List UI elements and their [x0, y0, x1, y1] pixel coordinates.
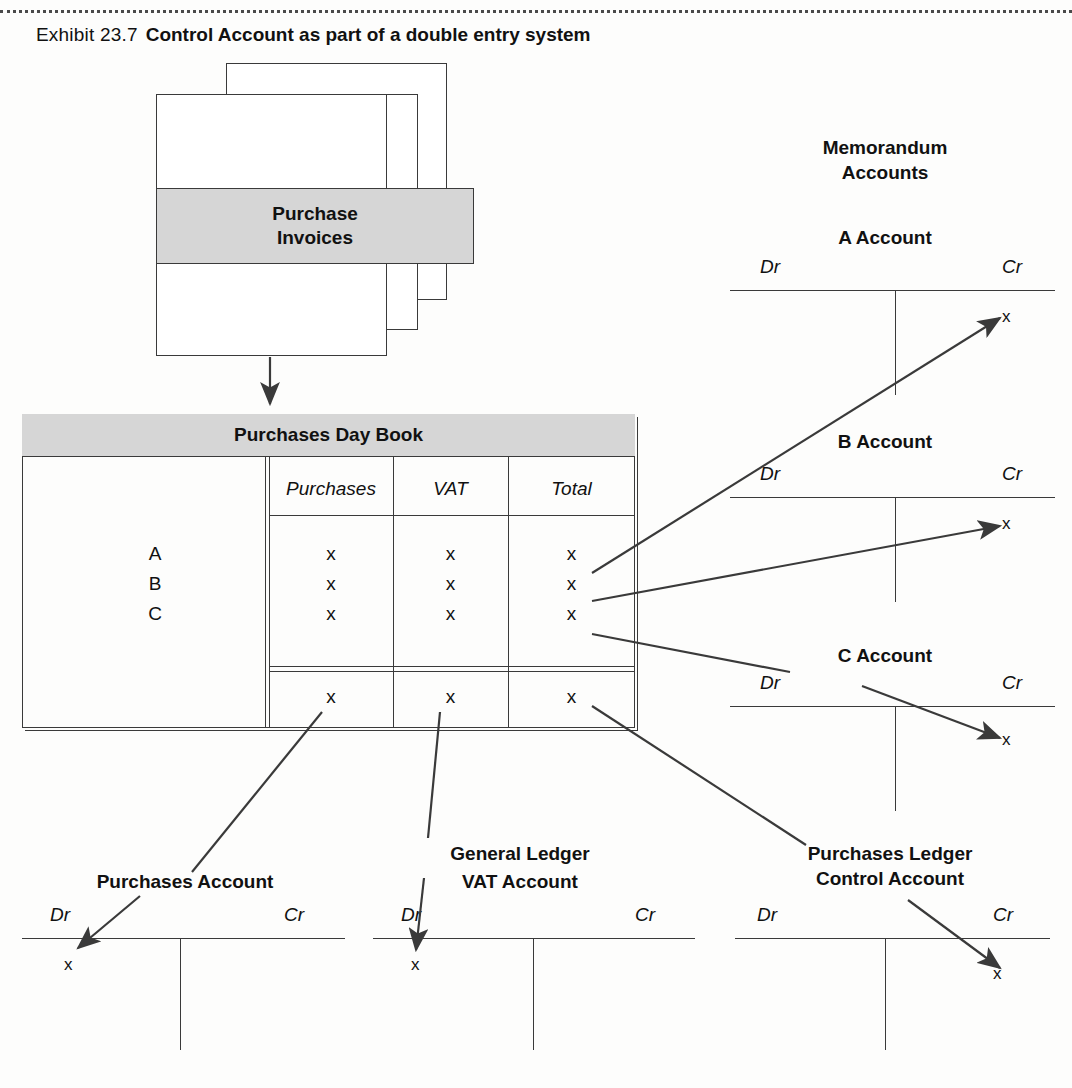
vat-account-debit-value: x — [411, 955, 420, 975]
arrow-purchases-total-to-purchases-account-segment2 — [78, 896, 140, 948]
purchases-day-book: Purchases Day Book Purchases VAT Total A… — [22, 414, 635, 728]
cell-total-c: x — [508, 599, 635, 629]
exhibit-title: Control Account as part of a double entr… — [146, 24, 591, 45]
c-account-dr-label: Dr — [760, 672, 780, 694]
b-account-title: B Account — [790, 430, 980, 455]
memorandum-heading-line2: Accounts — [842, 162, 929, 183]
column-header-vat: VAT — [393, 472, 508, 506]
column-header-purchases: Purchases — [269, 472, 393, 506]
b-account-dr-label: Dr — [760, 463, 780, 485]
memorandum-accounts-heading: Memorandum Accounts — [760, 136, 1010, 185]
plca-title-line2: Control Account — [816, 868, 964, 889]
cell-purchases-c: x — [269, 599, 393, 629]
c-account-title: C Account — [790, 644, 980, 669]
exhibit-number: Exhibit 23.7 — [36, 24, 138, 45]
exhibit-diagram: Exhibit 23.7Control Account as part of a… — [0, 0, 1072, 1088]
a-account-title: A Account — [790, 226, 980, 251]
memorandum-heading-line1: Memorandum — [823, 137, 948, 158]
column-cells-purchases: x x x — [269, 539, 393, 629]
c-account-bar — [730, 706, 1055, 707]
day-book-column-rule-left-a — [265, 457, 266, 728]
purchases-account-dr-label: Dr — [50, 904, 70, 926]
day-book-totals-rule-upper — [269, 666, 635, 667]
c-account-credit-value: x — [1002, 730, 1011, 750]
a-account-bar — [730, 290, 1055, 291]
vat-account-title: VAT Account — [385, 870, 655, 895]
arrow-purchases-total-to-purchases-account-segment1 — [192, 712, 322, 872]
purchases-account-bar — [22, 938, 345, 939]
a-account-dr-label: Dr — [760, 256, 780, 278]
purchases-account-stem — [180, 938, 181, 1050]
page-top-rule — [0, 10, 1072, 13]
vat-account-bar — [373, 938, 695, 939]
purchases-account-cr-label: Cr — [284, 904, 304, 926]
b-account-bar — [730, 497, 1055, 498]
b-account-cr-label: Cr — [1002, 463, 1022, 485]
total-cell-vat: x — [393, 686, 508, 708]
arrow-total-b-to-b-account — [592, 526, 1000, 601]
total-cell-total: x — [508, 686, 635, 708]
cell-vat-b: x — [393, 569, 508, 599]
cell-total-b: x — [508, 569, 635, 599]
vat-account-dr-label: Dr — [401, 904, 421, 926]
cell-vat-a: x — [393, 539, 508, 569]
plca-bar — [735, 938, 1050, 939]
column-cells-total: x x x — [508, 539, 635, 629]
column-cells-vat: x x x — [393, 539, 508, 629]
arrow-grand-total-to-plca-segment2 — [908, 900, 1000, 968]
general-ledger-heading: General Ledger — [385, 842, 655, 867]
arrow-total-c-to-c-account-segment2 — [862, 686, 1000, 738]
row-label-b: B — [140, 569, 170, 599]
a-account-cr-label: Cr — [1002, 256, 1022, 278]
vat-account-cr-label: Cr — [635, 904, 655, 926]
a-account-credit-value: x — [1002, 307, 1011, 327]
purchases-account-title: Purchases Account — [20, 870, 350, 895]
day-book-row-labels: A B C — [140, 539, 170, 629]
c-account-stem — [895, 706, 896, 811]
b-account-stem — [895, 497, 896, 602]
exhibit-caption: Exhibit 23.7Control Account as part of a… — [36, 24, 591, 46]
plca-cr-label: Cr — [993, 904, 1013, 926]
row-label-c: C — [140, 599, 170, 629]
day-book-header-underline — [269, 515, 635, 516]
cell-total-a: x — [508, 539, 635, 569]
cell-vat-c: x — [393, 599, 508, 629]
plca-credit-value: x — [993, 964, 1002, 984]
day-book-totals-rule-lower — [269, 671, 635, 672]
purchase-invoices-label: Purchase Invoices — [156, 188, 474, 264]
vat-account-stem — [533, 938, 534, 1050]
plca-dr-label: Dr — [757, 904, 777, 926]
purchases-account-debit-value: x — [64, 955, 73, 975]
row-label-a: A — [140, 539, 170, 569]
purchase-invoices-label-line2: Invoices — [277, 226, 353, 250]
b-account-credit-value: x — [1002, 514, 1011, 534]
cell-purchases-b: x — [269, 569, 393, 599]
plca-title-line1: Purchases Ledger — [808, 843, 973, 864]
cell-purchases-a: x — [269, 539, 393, 569]
a-account-stem — [895, 290, 896, 395]
c-account-cr-label: Cr — [1002, 672, 1022, 694]
day-book-title: Purchases Day Book — [22, 414, 635, 457]
plca-stem — [885, 938, 886, 1050]
column-header-total: Total — [508, 472, 635, 506]
total-cell-purchases: x — [269, 686, 393, 708]
purchases-ledger-control-account-title: Purchases Ledger Control Account — [760, 842, 1020, 891]
purchase-invoices-label-line1: Purchase — [272, 202, 358, 226]
